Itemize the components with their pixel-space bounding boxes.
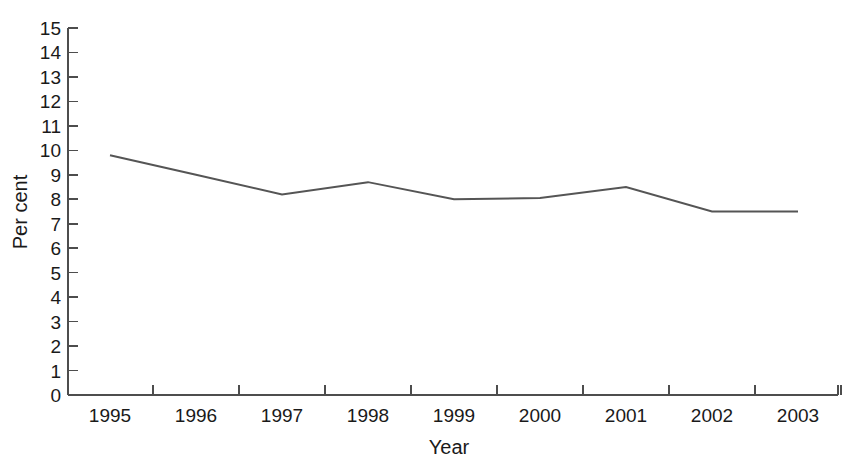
- x-tick-label: 2002: [672, 406, 752, 425]
- y-tick-label: 13: [40, 68, 61, 87]
- line-chart: 0123456789101112131415 19951996199719981…: [0, 0, 846, 462]
- series-line-per-cent: [110, 155, 798, 211]
- y-tick-label: 3: [50, 313, 61, 332]
- y-tick-label: 14: [40, 43, 61, 62]
- data-series: [110, 155, 798, 211]
- x-tick-label: 2003: [758, 406, 838, 425]
- x-tick-label: 1997: [242, 406, 322, 425]
- y-tick-label: 12: [40, 92, 61, 111]
- x-tick-label: 1998: [328, 406, 408, 425]
- y-axis-title: Per cent: [10, 162, 30, 262]
- x-tick-label: 2001: [586, 406, 666, 425]
- x-axis-title: Year: [26, 437, 846, 457]
- y-tick-label: 5: [50, 264, 61, 283]
- x-tick-label: 1999: [414, 406, 494, 425]
- plot-area: [0, 0, 846, 462]
- x-tick-label: 1996: [156, 406, 236, 425]
- y-tick-label: 10: [40, 141, 61, 160]
- y-tick-label: 8: [50, 190, 61, 209]
- y-tick-label: 4: [50, 288, 61, 307]
- x-tick-label: 1995: [70, 406, 150, 425]
- y-tick-label: 0: [50, 386, 61, 405]
- y-tick-label: 1: [50, 362, 61, 381]
- y-tick-label: 15: [40, 19, 61, 38]
- y-tick-label: 7: [50, 215, 61, 234]
- y-tick-label: 2: [50, 337, 61, 356]
- y-tick-label: 9: [50, 166, 61, 185]
- y-tick-label: 6: [50, 239, 61, 258]
- y-tick-label: 11: [41, 117, 61, 136]
- x-tick-label: 2000: [500, 406, 580, 425]
